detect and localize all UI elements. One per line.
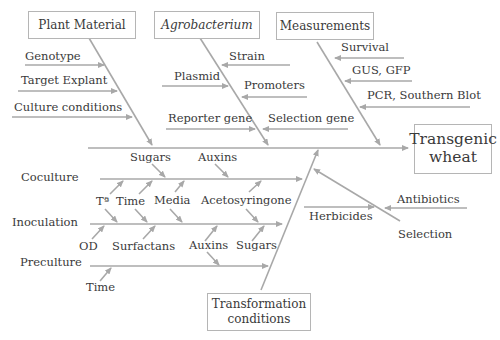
- category-box-plant-material: Plant Material: [28, 11, 136, 39]
- stage-preculture: Preculture: [20, 257, 82, 269]
- cause-plasmid: Plasmid: [174, 71, 220, 83]
- cause-coculture-media: Media: [154, 195, 190, 207]
- cause-inoculation-surfactans: Surfactans: [112, 241, 175, 253]
- category-label-line1: Transformation: [212, 297, 306, 312]
- cause-pcr-southern-blot: PCR, Southern Blot: [367, 90, 481, 102]
- cause-genotype: Genotype: [25, 51, 81, 63]
- category-label: Measurements: [280, 19, 370, 33]
- effect-label-line2: wheat: [429, 149, 477, 167]
- cause-inoculation-sugars: Sugars: [236, 240, 277, 252]
- category-selection: Selection: [398, 229, 452, 241]
- cause-coculture-auxins: Auxins: [198, 152, 237, 164]
- cause-antibiotics: Antibiotics: [397, 194, 460, 206]
- cause-culture-conditions: Culture conditions: [14, 102, 122, 114]
- cause-coculture-time: Time: [116, 196, 145, 208]
- cause-coculture-sugars: Sugars: [130, 152, 171, 164]
- effect-label-line1: Transgenic: [409, 131, 497, 149]
- cause-inoculation-od: OD: [79, 241, 98, 253]
- cause-coculture-acetosyringone: Acetosyringone: [201, 195, 292, 207]
- cause-inoculation-auxins: Auxins: [189, 240, 228, 252]
- category-label: Plant Material: [38, 18, 125, 32]
- cause-strain: Strain: [229, 51, 265, 63]
- cause-coculture-temperature: Tª: [96, 196, 109, 208]
- cause-herbicides: Herbicides: [309, 211, 373, 223]
- cause-target-explant: Target Explant: [21, 75, 107, 87]
- category-box-measurements: Measurements: [276, 12, 374, 40]
- stage-coculture: Coculture: [21, 172, 79, 184]
- stage-inoculation: Inoculation: [12, 217, 78, 229]
- category-label-line2: conditions: [228, 312, 291, 327]
- category-box-transformation-conditions: Transformation conditions: [207, 293, 311, 331]
- category-label: Agrobacterium: [161, 18, 252, 32]
- cause-preculture-time: Time: [86, 282, 115, 294]
- category-box-agrobacterium: Agrobacterium: [154, 11, 260, 39]
- effect-box: Transgenic wheat: [414, 124, 492, 174]
- cause-selection-gene: Selection gene: [268, 113, 354, 125]
- cause-gus-gfp: GUS, GFP: [352, 65, 411, 77]
- cause-survival: Survival: [341, 42, 389, 54]
- cause-promoters: Promoters: [244, 80, 305, 92]
- cause-reporter-gene: Reporter gene: [168, 113, 252, 125]
